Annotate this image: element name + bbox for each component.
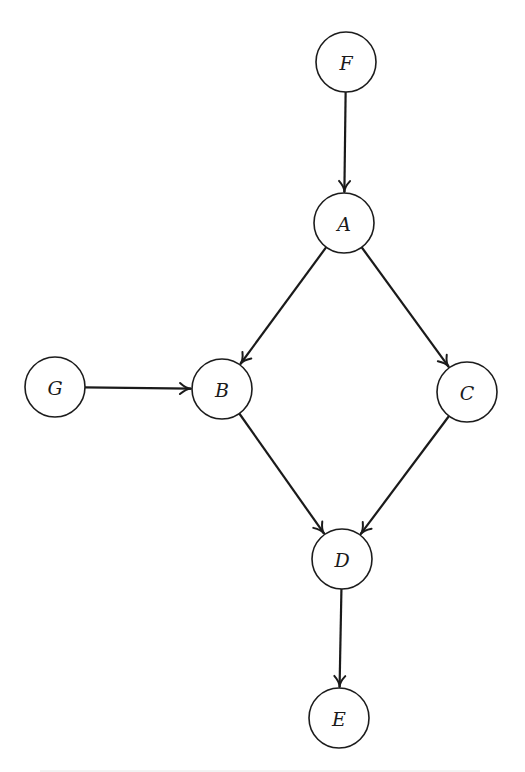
node-g[interactable]: G — [25, 357, 85, 417]
node-e[interactable]: E — [309, 688, 369, 748]
node-b-label: B — [214, 379, 229, 401]
node-g-label: G — [47, 377, 62, 399]
edge-line — [85, 387, 191, 388]
node-c[interactable]: C — [437, 362, 497, 422]
node-f-label: F — [338, 52, 353, 74]
edge-line — [344, 92, 345, 192]
node-c-label: C — [460, 382, 475, 404]
node-d[interactable]: D — [312, 529, 372, 589]
node-b[interactable]: B — [192, 359, 252, 419]
node-f[interactable]: F — [316, 32, 376, 92]
node-e-label: E — [331, 708, 346, 730]
node-a[interactable]: A — [314, 193, 374, 253]
node-a-label: A — [335, 213, 351, 235]
node-d-label: D — [333, 549, 349, 571]
directed-graph-diagram: F A G B C D E — [0, 0, 525, 772]
